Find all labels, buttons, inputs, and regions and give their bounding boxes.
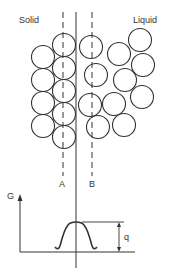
liquid-atom: [80, 36, 103, 59]
liquid-atom: [129, 29, 152, 52]
arrow-up-icon: [117, 222, 121, 227]
liquid-atom: [114, 69, 137, 92]
g-axis-label: G: [7, 192, 14, 201]
liquid-atom: [132, 54, 155, 77]
plane-b-label: B: [89, 180, 95, 189]
solid-atom: [32, 115, 55, 138]
liquid-atoms: [79, 29, 155, 139]
liquid-atom: [103, 93, 126, 116]
solid-atom: [32, 46, 55, 69]
liquid-atom: [79, 94, 102, 117]
solid-liquid-interface-diagram: [0, 0, 172, 279]
plane-a-label: A: [59, 180, 65, 189]
solid-atom: [53, 34, 76, 57]
liquid-atom: [108, 43, 131, 66]
solid-atom: [53, 126, 76, 149]
solid-atom: [53, 103, 76, 126]
solid-atom: [32, 69, 55, 92]
liquid-atom: [85, 64, 108, 87]
arrow-down-icon: [117, 247, 121, 252]
liquid-atom: [87, 116, 110, 139]
liquid-label: Liquid: [133, 16, 157, 25]
barrier-q-label: q: [124, 233, 129, 242]
solid-atom: [53, 57, 76, 80]
liquid-atom: [131, 86, 154, 109]
solid-label: Solid: [19, 16, 39, 25]
solid-atom: [32, 92, 55, 115]
g-axis-arrow-icon: [18, 194, 23, 201]
solid-atoms: [32, 34, 76, 149]
solid-atom: [53, 80, 76, 103]
liquid-atom: [113, 114, 136, 137]
